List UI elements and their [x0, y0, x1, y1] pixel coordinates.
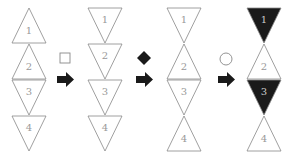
triangle-1: 1 — [247, 8, 281, 43]
triangle-label: 2 — [181, 61, 187, 72]
triangle-label: 3 — [261, 86, 267, 97]
triangle-transformation-diagram: 1234123412341234 — [0, 0, 287, 161]
circle-icon — [220, 53, 232, 65]
triangle-3: 3 — [12, 80, 46, 115]
triangle-label: 3 — [26, 86, 32, 97]
operation-circle — [218, 53, 235, 87]
triangle-4: 4 — [88, 116, 122, 151]
column-4: 1234 — [247, 8, 281, 151]
column-2: 1234 — [88, 8, 122, 151]
triangle-label: 1 — [181, 14, 187, 25]
triangle-label: 1 — [102, 14, 108, 25]
triangle-label: 2 — [102, 50, 108, 61]
triangle-3: 3 — [167, 80, 201, 115]
column-1: 1234 — [12, 8, 46, 151]
triangle-4: 4 — [12, 116, 46, 151]
triangle-1: 1 — [167, 8, 201, 43]
column-3: 1234 — [167, 8, 201, 151]
triangle-label: 4 — [261, 133, 267, 144]
triangle-1: 1 — [12, 8, 46, 43]
triangle-2: 2 — [12, 44, 46, 79]
triangle-1: 1 — [88, 8, 122, 43]
triangle-2: 2 — [88, 44, 122, 79]
triangle-label: 2 — [261, 61, 267, 72]
triangle-label: 3 — [181, 86, 187, 97]
triangle-label: 1 — [261, 14, 267, 25]
arrow-right-icon — [57, 72, 74, 87]
triangle-label: 4 — [26, 122, 32, 133]
triangle-2: 2 — [167, 44, 201, 79]
triangle-label: 1 — [26, 25, 32, 36]
triangle-2: 2 — [247, 44, 281, 79]
triangle-4: 4 — [247, 116, 281, 151]
triangle-label: 4 — [102, 122, 108, 133]
triangle-3: 3 — [88, 80, 122, 115]
triangle-label: 4 — [181, 133, 187, 144]
arrow-right-icon — [218, 72, 235, 87]
operation-square — [57, 53, 74, 87]
triangle-label: 3 — [102, 86, 108, 97]
triangle-3: 3 — [247, 80, 281, 115]
square-icon — [60, 53, 70, 63]
arrow-right-icon — [136, 72, 153, 87]
operation-diamond — [136, 51, 153, 87]
triangle-label: 2 — [26, 61, 32, 72]
diamond-icon — [137, 51, 151, 65]
triangle-4: 4 — [167, 116, 201, 151]
